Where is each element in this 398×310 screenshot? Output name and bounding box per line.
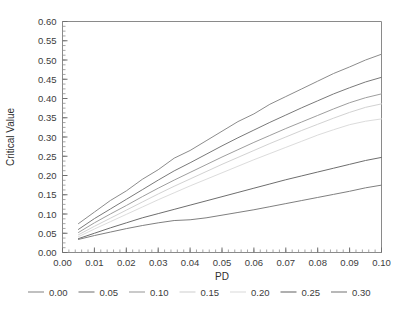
legend-label: 0.10 [150,287,169,298]
y-tick-label: 0.25 [38,151,57,162]
series-line-0p30 [78,185,381,239]
y-tick-label: 0.50 [38,55,57,66]
x-tick-label: 0.01 [85,257,104,268]
x-tick-label: 0.06 [245,257,264,268]
legend-item-0p05[interactable]: 0.05 [79,287,119,298]
legend-item-0p10[interactable]: 0.10 [129,287,169,298]
y-tick-label: 0.45 [38,74,57,85]
y-axis-title: Critical Value [5,107,16,166]
legend-layer: 0.000.050.100.150.200.250.30 [28,287,371,298]
y-tick-label: 0.20 [38,170,57,181]
legend-label: 0.20 [251,287,270,298]
series-line-0p00 [78,54,381,223]
x-tick-label: 0.04 [181,257,200,268]
x-tick-label: 0.10 [372,257,391,268]
y-tick-label: 0.10 [38,209,57,220]
x-tick-label: 0.02 [117,257,136,268]
legend-label: 0.05 [100,287,119,298]
legend-label: 0.30 [352,287,371,298]
x-tick-label: 0.08 [308,257,327,268]
legend-label: 0.25 [302,287,321,298]
series-layer [78,54,381,239]
legend-item-0p20[interactable]: 0.20 [230,287,270,298]
legend-item-0p15[interactable]: 0.15 [180,287,220,298]
y-tick-label: 0.35 [38,112,57,123]
x-tick-label: 0.03 [149,257,168,268]
tick-label-layer: 0.000.010.020.030.040.050.060.070.080.09… [38,16,391,268]
x-tick-label: 0.00 [53,257,72,268]
series-line-0p20 [78,119,381,237]
y-tick-label: 0.55 [38,35,57,46]
chart-container: 0.000.010.020.030.040.050.060.070.080.09… [0,0,398,310]
y-tick-label: 0.40 [38,93,57,104]
y-tick-label: 0.00 [38,247,57,258]
x-tick-label: 0.09 [340,257,359,268]
x-axis-title: PD [215,271,229,282]
legend-label: 0.15 [201,287,220,298]
legend-item-0p00[interactable]: 0.00 [28,287,68,298]
x-tick-label: 0.07 [277,257,296,268]
line-chart: 0.000.010.020.030.040.050.060.070.080.09… [0,0,398,310]
y-tick-label: 0.15 [38,189,57,200]
y-tick-label: 0.30 [38,132,57,143]
x-tick-label: 0.05 [213,257,232,268]
y-tick-label: 0.05 [38,228,57,239]
legend-item-0p25[interactable]: 0.25 [281,287,321,298]
legend-item-0p30[interactable]: 0.30 [331,287,371,298]
y-tick-label: 0.60 [38,16,57,27]
legend-label: 0.00 [49,287,68,298]
